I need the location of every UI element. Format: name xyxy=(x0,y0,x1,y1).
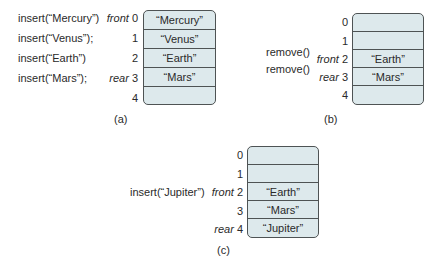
queue-cell: “Jupiter” xyxy=(248,219,318,237)
index-label: 4 xyxy=(342,90,348,101)
queue-array: “Earth” “Mars” “Jupiter” xyxy=(247,146,319,238)
index-label: rear 3 xyxy=(109,73,138,84)
queue-cell: “Earth” xyxy=(248,183,318,201)
index-label: 1 xyxy=(132,33,138,44)
index-label: front 2 xyxy=(317,54,348,65)
index-label: 0 xyxy=(237,150,243,161)
queue-cell xyxy=(248,165,318,183)
panel-caption: (c) xyxy=(217,245,230,256)
front-pointer-label: front xyxy=(107,12,129,24)
panel-caption: (b) xyxy=(324,114,337,125)
rear-pointer-label: rear xyxy=(319,71,339,83)
index-label: 4 xyxy=(132,93,138,104)
queue-cell: “Mars” xyxy=(353,68,423,86)
index-label: 3 xyxy=(237,206,243,217)
queue-cell xyxy=(353,14,423,32)
operation-label: insert(“Mars”); xyxy=(18,73,87,84)
queue-cell: “Earth” xyxy=(144,49,215,68)
operation-label: insert(“Mercury”) xyxy=(18,13,99,24)
index-label: rear 4 xyxy=(214,224,243,235)
index-label: front 0 xyxy=(107,13,138,24)
queue-array: “Earth” “Mars” xyxy=(352,13,424,105)
queue-cell xyxy=(144,87,215,104)
index-label: 2 xyxy=(132,53,138,64)
rear-pointer-label: rear xyxy=(109,72,129,84)
operation-label: insert(“Jupiter”) xyxy=(130,187,205,198)
operation-label: remove() xyxy=(266,47,310,58)
queue-cell: “Mars” xyxy=(144,68,215,87)
operation-label: insert(“Venus”); xyxy=(18,33,93,44)
queue-cell: “Mars” xyxy=(248,201,318,219)
queue-cell xyxy=(248,147,318,165)
queue-cell: “Mercury” xyxy=(144,11,215,30)
index-label: front 2 xyxy=(212,187,243,198)
index-label: 1 xyxy=(237,169,243,180)
operation-label: insert(“Earth”) xyxy=(18,53,86,64)
front-pointer-label: front xyxy=(317,53,339,65)
operation-label: remove() xyxy=(266,64,310,75)
queue-array: “Mercury” “Venus” “Earth” “Mars” xyxy=(143,10,216,105)
index-label: rear 3 xyxy=(319,72,348,83)
index-label: 0 xyxy=(342,17,348,28)
panel-caption: (a) xyxy=(114,114,127,125)
front-pointer-label: front xyxy=(212,186,234,198)
queue-cell xyxy=(353,86,423,104)
queue-cell: “Venus” xyxy=(144,30,215,49)
queue-cell xyxy=(353,32,423,50)
queue-cell: “Earth” xyxy=(353,50,423,68)
rear-pointer-label: rear xyxy=(214,223,234,235)
index-label: 1 xyxy=(342,36,348,47)
